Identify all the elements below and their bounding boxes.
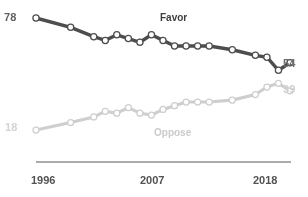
data-point-marker — [114, 110, 120, 116]
oppose-series-label: Oppose — [154, 127, 191, 138]
data-point-marker — [171, 43, 177, 49]
data-point-marker — [195, 99, 201, 105]
data-point-marker — [91, 114, 97, 120]
data-point-marker — [275, 80, 281, 86]
data-point-marker — [183, 43, 189, 49]
data-point-marker — [68, 120, 74, 126]
line-chart: 78 54 18 39 Favor Oppose 1996 2007 2018 — [0, 0, 308, 197]
x-tick-label-1: 2007 — [140, 174, 164, 186]
data-point-marker — [229, 97, 235, 103]
data-point-marker — [148, 112, 154, 118]
series-line-favor — [36, 18, 290, 70]
data-point-marker — [275, 67, 281, 73]
favor-start-value-label: 78 — [4, 11, 17, 23]
data-point-marker — [102, 108, 108, 114]
data-point-marker — [68, 24, 74, 30]
data-point-marker — [114, 32, 120, 38]
series-favor — [33, 15, 293, 73]
data-point-marker — [206, 99, 212, 105]
data-point-marker — [33, 15, 39, 21]
data-point-marker — [160, 37, 166, 43]
data-point-marker — [264, 54, 270, 60]
oppose-end-value-label: 39 — [283, 83, 296, 95]
data-point-marker — [206, 43, 212, 49]
data-point-marker — [229, 47, 235, 53]
data-point-marker — [137, 39, 143, 45]
data-point-marker — [252, 92, 258, 98]
data-point-marker — [33, 127, 39, 133]
favor-end-value-label: 54 — [283, 57, 296, 69]
data-point-marker — [125, 105, 131, 111]
data-point-marker — [125, 35, 131, 41]
data-point-marker — [252, 52, 258, 58]
data-point-marker — [183, 99, 189, 105]
data-point-marker — [102, 37, 108, 43]
chart-plot-area — [0, 0, 308, 197]
data-point-marker — [137, 110, 143, 116]
data-point-marker — [264, 84, 270, 90]
series-oppose — [33, 80, 293, 133]
favor-series-label: Favor — [160, 12, 187, 23]
x-tick-label-2: 2018 — [253, 174, 277, 186]
data-point-marker — [148, 32, 154, 38]
data-point-marker — [160, 106, 166, 112]
data-point-marker — [91, 34, 97, 40]
data-point-marker — [195, 43, 201, 49]
x-tick-label-0: 1996 — [31, 174, 55, 186]
oppose-start-value-label: 18 — [5, 121, 18, 133]
data-point-marker — [172, 103, 178, 109]
